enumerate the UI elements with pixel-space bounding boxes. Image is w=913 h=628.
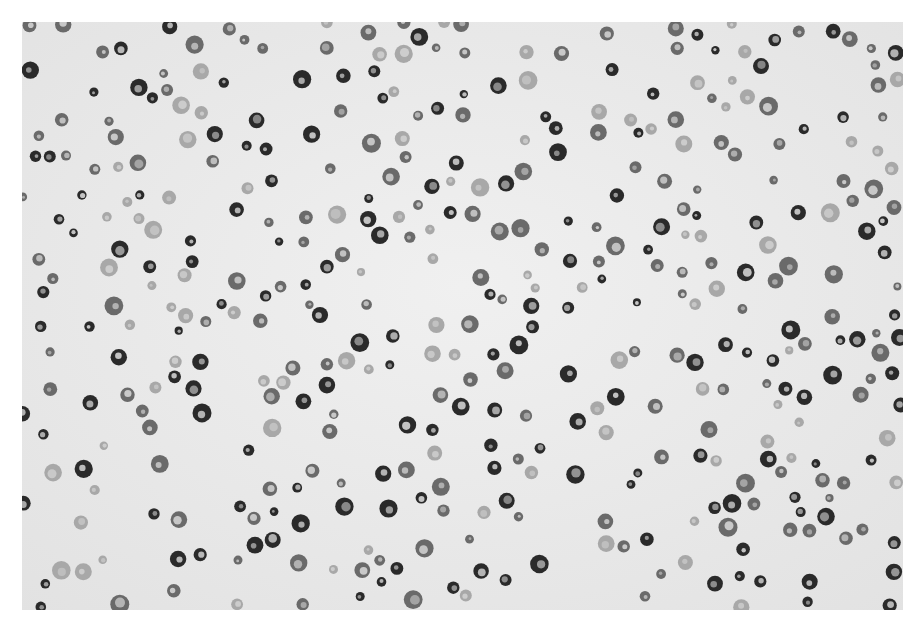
cell xyxy=(375,466,391,482)
cell xyxy=(424,345,441,362)
cell xyxy=(34,130,45,141)
cell xyxy=(523,271,532,280)
cell xyxy=(525,466,538,479)
cell xyxy=(393,211,405,223)
cell xyxy=(591,104,607,120)
cell xyxy=(377,577,387,587)
cell xyxy=(647,87,659,99)
cell xyxy=(872,146,883,157)
cell xyxy=(179,131,196,148)
cell xyxy=(611,351,629,369)
cell xyxy=(207,126,223,142)
cell xyxy=(178,308,193,323)
cell xyxy=(577,282,588,293)
cell xyxy=(629,346,640,357)
cell xyxy=(242,141,252,151)
cell xyxy=(258,375,270,387)
cell xyxy=(148,508,159,519)
cell xyxy=(887,200,902,215)
cell xyxy=(69,229,78,238)
cell xyxy=(77,190,86,199)
cell xyxy=(554,46,569,61)
cell xyxy=(793,26,805,38)
cell xyxy=(292,483,302,493)
cell xyxy=(329,565,338,574)
cell xyxy=(714,135,729,150)
cell xyxy=(361,299,372,310)
cell xyxy=(754,575,766,587)
cell xyxy=(721,102,730,111)
cell xyxy=(796,507,806,517)
cell xyxy=(693,449,707,463)
cell xyxy=(32,253,45,266)
cell xyxy=(47,273,58,284)
cell xyxy=(427,446,442,461)
cell xyxy=(83,395,99,411)
cell xyxy=(432,478,450,496)
cell xyxy=(797,390,813,406)
cell xyxy=(846,136,858,148)
cell xyxy=(526,320,539,333)
cell xyxy=(329,410,338,419)
cell xyxy=(426,424,438,436)
cell xyxy=(656,569,666,579)
cell xyxy=(178,268,192,282)
cell xyxy=(354,562,370,578)
cell xyxy=(465,535,474,544)
cell xyxy=(490,77,507,94)
cell xyxy=(364,194,373,203)
cell xyxy=(98,555,107,564)
cell xyxy=(371,227,389,245)
cell xyxy=(142,420,158,436)
cell xyxy=(540,111,551,122)
cell xyxy=(285,361,300,376)
cell xyxy=(802,574,818,590)
cell xyxy=(562,302,574,314)
cell xyxy=(643,245,653,255)
cell xyxy=(878,216,888,226)
cell xyxy=(823,366,842,385)
cell xyxy=(648,399,663,414)
cell xyxy=(590,124,607,141)
cell xyxy=(130,79,147,96)
cell xyxy=(300,279,311,290)
cell xyxy=(263,419,281,437)
cell xyxy=(336,69,351,84)
cell xyxy=(147,92,158,103)
cell xyxy=(864,179,883,198)
cell xyxy=(519,71,538,90)
cell xyxy=(108,129,124,145)
cell xyxy=(100,259,118,277)
cells-layer xyxy=(22,22,903,610)
cell xyxy=(708,501,721,514)
cell xyxy=(428,253,439,264)
cell xyxy=(46,347,55,356)
cell xyxy=(718,337,733,352)
cell xyxy=(690,75,705,90)
cell xyxy=(640,532,654,546)
cell xyxy=(484,289,495,300)
cell xyxy=(886,564,902,580)
cell xyxy=(678,289,687,298)
cell xyxy=(169,356,181,368)
cell xyxy=(773,400,782,409)
cell xyxy=(670,348,685,363)
cell xyxy=(487,403,502,418)
cell xyxy=(878,245,892,259)
cell xyxy=(753,58,769,74)
cell xyxy=(38,429,48,439)
cell xyxy=(692,211,701,220)
cell xyxy=(433,387,449,403)
cell xyxy=(143,260,156,273)
cell xyxy=(386,329,400,343)
cell xyxy=(497,295,507,305)
cell xyxy=(563,254,577,268)
cell xyxy=(298,237,309,248)
cell xyxy=(853,387,869,403)
cell xyxy=(382,168,400,186)
cell xyxy=(826,24,841,39)
cell xyxy=(487,461,501,475)
cell xyxy=(276,375,290,389)
cell xyxy=(114,42,128,56)
cell xyxy=(498,175,514,191)
